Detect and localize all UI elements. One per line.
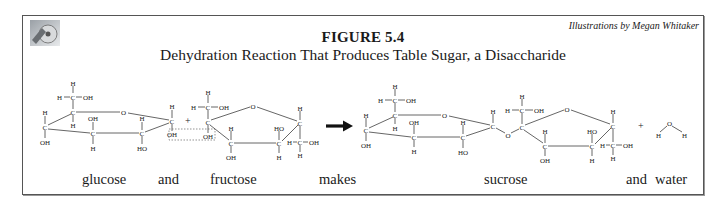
svg-text:H: H bbox=[393, 83, 398, 91]
caption-fructose: fructose bbox=[210, 171, 257, 188]
svg-text:OH: OH bbox=[40, 139, 50, 147]
glucose-molecule: H H C OH C H O H C OH OH C H H C HO H C … bbox=[40, 80, 177, 153]
svg-text:C: C bbox=[43, 124, 48, 132]
svg-text:OH: OH bbox=[167, 131, 177, 139]
svg-text:HO: HO bbox=[587, 128, 597, 136]
svg-text:C: C bbox=[229, 140, 234, 148]
svg-text:H: H bbox=[461, 119, 466, 127]
svg-text:H: H bbox=[191, 104, 196, 112]
svg-text:O: O bbox=[251, 103, 256, 111]
svg-text:O: O bbox=[565, 106, 570, 114]
svg-text:OH: OH bbox=[534, 107, 544, 115]
svg-text:C: C bbox=[140, 130, 145, 138]
svg-text:C: C bbox=[543, 143, 548, 151]
atom-h: H bbox=[71, 80, 76, 88]
svg-text:HO: HO bbox=[458, 149, 468, 157]
svg-text:OH: OH bbox=[88, 115, 98, 123]
svg-text:H: H bbox=[520, 93, 525, 101]
svg-text:H: H bbox=[393, 125, 398, 133]
svg-text:C: C bbox=[298, 120, 303, 128]
svg-text:HO: HO bbox=[274, 125, 284, 133]
fructose-molecule: H H C OH C OH O H C OH HO C H H C H C OH… bbox=[191, 89, 319, 162]
svg-text:C: C bbox=[206, 119, 211, 127]
svg-text:C: C bbox=[520, 107, 525, 115]
svg-text:O: O bbox=[667, 120, 672, 128]
svg-text:OH: OH bbox=[309, 139, 319, 147]
sucrose-molecule: H H C OH C H O H C OH OH C H H C HO H C … bbox=[361, 83, 633, 165]
caption-glucose: glucose bbox=[82, 171, 126, 188]
svg-text:H: H bbox=[91, 145, 96, 153]
svg-text:H: H bbox=[170, 103, 175, 111]
svg-text:OH: OH bbox=[409, 119, 419, 127]
svg-text:OH: OH bbox=[219, 104, 229, 112]
svg-text:C: C bbox=[461, 134, 466, 142]
svg-text:O: O bbox=[442, 112, 447, 120]
svg-text:H: H bbox=[378, 97, 383, 105]
svg-text:C: C bbox=[298, 139, 303, 147]
svg-text:H: H bbox=[590, 157, 595, 165]
svg-text:H: H bbox=[229, 125, 234, 133]
plus-sign: + bbox=[185, 115, 191, 126]
svg-text:H: H bbox=[682, 132, 687, 140]
svg-text:H: H bbox=[505, 107, 510, 115]
svg-text:C: C bbox=[611, 142, 616, 150]
caption-makes: makes bbox=[319, 171, 356, 188]
caption-and-2: and bbox=[626, 171, 647, 188]
svg-text:H: H bbox=[277, 154, 282, 162]
svg-text:C: C bbox=[520, 124, 525, 132]
svg-text:H: H bbox=[57, 94, 62, 102]
caption-and-1: and bbox=[158, 171, 179, 188]
svg-text:H: H bbox=[364, 112, 369, 120]
svg-text:C: C bbox=[71, 94, 76, 102]
svg-text:C: C bbox=[170, 118, 175, 126]
svg-text:C: C bbox=[393, 97, 398, 105]
svg-text:HO: HO bbox=[137, 145, 147, 153]
svg-text:C: C bbox=[71, 109, 76, 117]
glycosidic-oxygen: O bbox=[506, 132, 511, 140]
svg-text:H: H bbox=[71, 122, 76, 130]
svg-text:O: O bbox=[121, 109, 126, 117]
svg-text:H: H bbox=[43, 109, 48, 117]
reaction-arrow bbox=[326, 121, 353, 132]
svg-text:H: H bbox=[611, 108, 616, 116]
svg-text:H: H bbox=[412, 148, 417, 156]
svg-text:C: C bbox=[277, 140, 282, 148]
plus-sign-products: + bbox=[638, 120, 644, 131]
svg-text:H: H bbox=[543, 128, 548, 136]
water-molecule: O H H bbox=[656, 120, 687, 140]
svg-text:C: C bbox=[590, 143, 595, 151]
svg-text:H: H bbox=[287, 139, 292, 147]
svg-text:H: H bbox=[206, 89, 211, 97]
svg-text:H: H bbox=[600, 142, 605, 150]
svg-text:OH: OH bbox=[203, 133, 213, 141]
svg-text:C: C bbox=[412, 134, 417, 142]
svg-text:H: H bbox=[298, 152, 303, 160]
svg-text:C: C bbox=[206, 104, 211, 112]
svg-text:H: H bbox=[298, 105, 303, 113]
svg-text:OH: OH bbox=[623, 142, 633, 150]
svg-text:H: H bbox=[491, 108, 496, 116]
svg-text:C: C bbox=[364, 127, 369, 135]
svg-text:C: C bbox=[91, 130, 96, 138]
svg-text:OH: OH bbox=[361, 142, 371, 150]
svg-text:OH: OH bbox=[83, 94, 93, 102]
caption-sucrose: sucrose bbox=[484, 171, 528, 188]
svg-text:OH: OH bbox=[406, 97, 416, 105]
svg-text:H: H bbox=[140, 115, 145, 123]
caption-water: water bbox=[655, 171, 687, 188]
svg-text:H: H bbox=[611, 155, 616, 163]
svg-text:C: C bbox=[611, 123, 616, 131]
svg-text:C: C bbox=[393, 112, 398, 120]
svg-text:OH: OH bbox=[540, 157, 550, 165]
svg-text:OH: OH bbox=[226, 154, 236, 162]
svg-text:C: C bbox=[491, 123, 496, 131]
svg-text:H: H bbox=[656, 132, 661, 140]
